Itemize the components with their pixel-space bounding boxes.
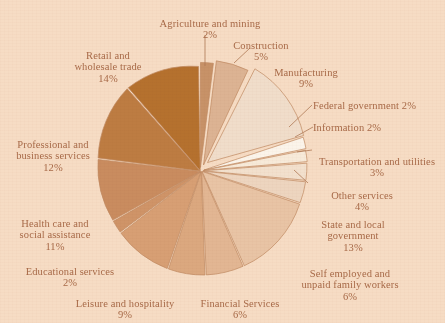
label-other-services-name: Other services [331, 190, 393, 201]
label-professional-and-business-services: Professional and business services 12% [2, 127, 104, 185]
label-health-care-pct: 11% [5, 241, 105, 253]
label-financial-services: Financial Services 6% [180, 286, 300, 323]
label-retail-pct: 14% [52, 73, 164, 85]
label-self-employed-name: Self employed and unpaid family workers [301, 268, 398, 291]
label-construction-name: Construction [233, 40, 288, 51]
label-manufacturing-name: Manufacturing [274, 67, 338, 78]
label-information: Information 2% [313, 122, 433, 134]
label-state-local-name: State and local government [321, 219, 384, 242]
label-transportation-name: Transportation and utilities [319, 156, 435, 167]
pie-chart: Agriculture and mining 2% Construction 5… [0, 0, 445, 323]
label-state-local-pct: 13% [303, 242, 403, 254]
label-health-care-name: Health care and social assistance [20, 218, 91, 241]
label-financial-pct: 6% [180, 309, 300, 321]
label-federal-government: Federal government 2% [313, 100, 443, 112]
label-leisure-pct: 9% [60, 309, 190, 321]
label-retail-and-wholesale-trade: Retail and wholesale trade 14% [52, 38, 164, 96]
label-retail-name: Retail and wholesale trade [74, 50, 141, 73]
label-financial-name: Financial Services [200, 298, 279, 309]
label-professional-name: Professional and business services [16, 139, 90, 162]
label-manufacturing: Manufacturing 9% [258, 55, 354, 101]
label-manufacturing-pct: 9% [258, 78, 354, 90]
label-educational-pct: 2% [10, 277, 130, 289]
label-health-care-and-social-assistance: Health care and social assistance 11% [5, 206, 105, 264]
label-professional-pct: 12% [2, 162, 104, 174]
label-agriculture-name: Agriculture and mining [160, 18, 261, 29]
label-educational-name: Educational services [26, 266, 115, 277]
